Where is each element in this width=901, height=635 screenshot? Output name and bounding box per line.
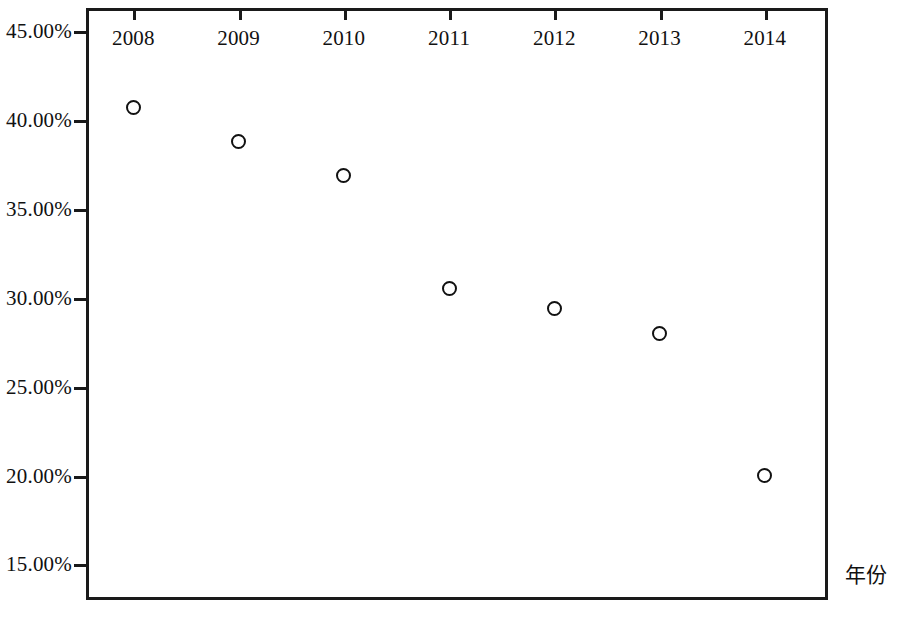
data-point-marker [757, 468, 772, 483]
y-axis-tick-mark [74, 120, 86, 123]
y-axis-tick-label: 15.00% [6, 552, 72, 577]
plot-area: 45.00%40.00%35.00%30.00%25.00%20.00%15.0… [86, 8, 828, 600]
y-axis-tick-label: 25.00% [6, 374, 72, 399]
x-axis-tick-label: 2011 [428, 26, 470, 51]
data-point-marker [547, 301, 562, 316]
data-point-marker [442, 281, 457, 296]
x-axis-tick-mark [765, 8, 768, 20]
x-axis-tick-label: 2013 [638, 26, 681, 51]
x-axis-tick-label: 2009 [217, 26, 260, 51]
y-axis-tick-label: 35.00% [6, 196, 72, 221]
x-axis-tick-mark [239, 8, 242, 20]
x-axis-tick-label: 2012 [533, 26, 576, 51]
y-axis-tick-mark [74, 298, 86, 301]
y-axis-tick-mark [74, 387, 86, 390]
x-axis-tick-mark [133, 8, 136, 20]
x-axis-tick-mark [554, 8, 557, 20]
x-axis-tick-label: 2014 [743, 26, 786, 51]
x-axis-tick-mark [660, 8, 663, 20]
data-point-marker [126, 100, 141, 115]
data-point-marker [336, 168, 351, 183]
chart-page: 45.00%40.00%35.00%30.00%25.00%20.00%15.0… [0, 0, 901, 635]
data-point-marker [231, 134, 246, 149]
y-axis-tick-label: 20.00% [6, 463, 72, 488]
y-axis-tick-label: 40.00% [6, 108, 72, 133]
x-axis-title: 年份 [845, 558, 887, 588]
x-axis-tick-label: 2010 [322, 26, 365, 51]
x-axis-tick-mark [344, 8, 347, 20]
y-axis-tick-label: 45.00% [6, 19, 72, 44]
y-axis-tick-mark [74, 564, 86, 567]
data-point-marker [652, 326, 667, 341]
y-axis-tick-mark [74, 31, 86, 34]
y-axis-tick-label: 30.00% [6, 285, 72, 310]
x-axis-tick-mark [449, 8, 452, 20]
y-axis-tick-mark [74, 476, 86, 479]
y-axis-tick-mark [74, 209, 86, 212]
x-axis-tick-label: 2008 [112, 26, 155, 51]
